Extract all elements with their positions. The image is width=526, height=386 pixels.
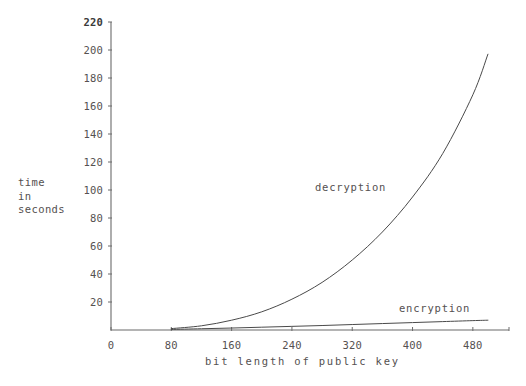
axes	[111, 22, 509, 330]
x-tick-label: 400	[403, 339, 423, 351]
x-axis-title: bit length of public key	[205, 355, 400, 367]
y-axis-title-line: seconds	[18, 203, 65, 217]
series-line-encryption	[171, 320, 488, 329]
x-tick-label: 240	[282, 339, 302, 351]
x-tick-label: 320	[342, 339, 362, 351]
y-tick-label: 120	[73, 156, 103, 168]
chart-container: 020406080100120140160180200220 080160240…	[0, 0, 526, 386]
series-label-decryption: decryption	[315, 181, 386, 193]
y-tick-label: 20	[73, 296, 103, 308]
y-tick-label: 40	[73, 268, 103, 280]
y-tick-label: 140	[73, 128, 103, 140]
x-tick-label: 480	[463, 339, 483, 351]
y-tick-label: 220	[73, 16, 103, 28]
y-axis-title-line: time	[18, 176, 65, 190]
y-tick-label: 100	[73, 184, 103, 196]
x-tick-label: 0	[108, 339, 115, 351]
y-axis-title-line: in	[18, 190, 65, 204]
x-tick-label: 80	[165, 339, 178, 351]
y-tick-label: 60	[73, 240, 103, 252]
y-tick-label: 200	[73, 44, 103, 56]
y-tick-label: 180	[73, 72, 103, 84]
series-label-encryption: encryption	[399, 302, 470, 314]
y-tick-label: 160	[73, 100, 103, 112]
tick-marks	[108, 22, 509, 331]
y-axis-title: timeinseconds	[18, 176, 65, 217]
x-tick-label: 160	[222, 339, 242, 351]
y-tick-label: 80	[73, 212, 103, 224]
